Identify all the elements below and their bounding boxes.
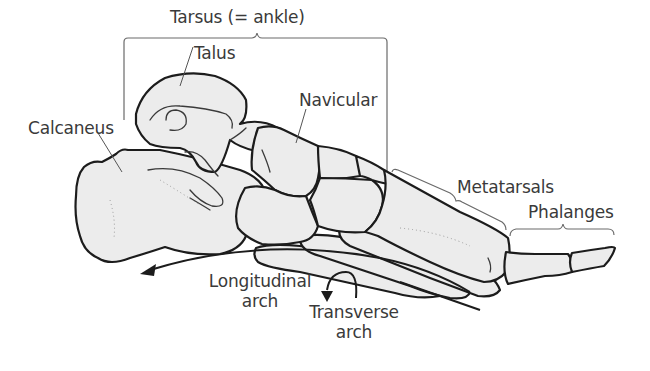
proximal-phalanx-bone [504, 252, 572, 284]
longitudinal-arch-label: Longitudinal arch [198, 272, 322, 311]
cuneiform-intermediate-bone [318, 146, 362, 179]
longitudinal-arch-label-line2: arch [198, 292, 322, 312]
tarsus-label: Tarsus (= ankle) [170, 8, 305, 28]
talus-label: Talus [194, 44, 235, 64]
phalanges-bracket [510, 224, 614, 236]
transverse-arch-label: Transverse arch [306, 303, 402, 342]
distal-phalanx-bone [570, 247, 615, 272]
metatarsals-label: Metatarsals [457, 178, 554, 198]
longitudinal-arch-arrowhead [140, 264, 156, 276]
navicular-label: Navicular [299, 91, 377, 111]
calcaneus-label: Calcaneus [28, 119, 114, 139]
transverse-arch-label-line2: arch [306, 323, 402, 343]
phalanges-label: Phalanges [528, 203, 614, 223]
longitudinal-arch-label-line1: Longitudinal [198, 272, 322, 292]
transverse-arch-arrowhead [321, 291, 333, 302]
foot-skeleton-diagram: Tarsus (= ankle) Talus Calcaneus Navicul… [0, 0, 650, 371]
transverse-arch-label-line1: Transverse [306, 303, 402, 323]
cuboid-bone [236, 186, 318, 244]
